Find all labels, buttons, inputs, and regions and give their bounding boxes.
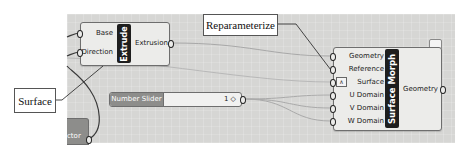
input-direction-label: Direction — [81, 48, 113, 56]
input-reference-grip[interactable] — [330, 66, 336, 74]
vector-output-grip[interactable] — [86, 136, 92, 144]
input-w-domain-label: W Domain — [348, 117, 384, 125]
input-u-domain-grip[interactable] — [330, 92, 336, 100]
input-surface-label: Surface — [357, 78, 384, 86]
input-geometry-label: Geometry — [349, 52, 384, 60]
number-slider-label: Number Slider — [110, 93, 164, 106]
callout-surface: Surface — [14, 88, 56, 113]
vector-component-label: ctor — [67, 132, 81, 140]
callout-reparameterize: Reparameterize — [203, 14, 278, 36]
input-surface-grip[interactable] — [330, 79, 336, 87]
input-w-domain-grip[interactable] — [330, 118, 336, 126]
slider-value-text: 1 — [224, 95, 228, 103]
surface-morph-title-bar: Surface Morph — [385, 49, 399, 128]
input-base-label: Base — [96, 29, 113, 37]
number-slider-value[interactable]: 1 ◇ — [224, 93, 236, 106]
extrude-title-bar: Extrude — [117, 24, 131, 63]
slider-output-grip[interactable] — [240, 96, 246, 104]
output-geometry-label: Geometry — [403, 85, 438, 93]
extrude-component[interactable]: Base Direction Extrude Extrusion — [80, 22, 170, 66]
input-reference-label: Reference — [349, 65, 384, 73]
surface-morph-component[interactable]: Geometry Reference Surface U Domain V Do… — [333, 47, 442, 131]
extrude-title: Extrude — [120, 26, 129, 61]
slider-handle-icon[interactable]: ◇ — [231, 95, 236, 103]
input-geometry-grip[interactable] — [330, 53, 336, 61]
input-u-domain-label: U Domain — [349, 91, 384, 99]
output-geometry-grip[interactable] — [440, 86, 446, 94]
input-direction-grip[interactable] — [77, 49, 83, 57]
surface-morph-title: Surface Morph — [387, 53, 397, 123]
output-extrusion-grip[interactable] — [168, 40, 174, 48]
input-v-domain-grip[interactable] — [330, 105, 336, 113]
output-extrusion-label: Extrusion — [135, 39, 168, 47]
input-v-domain-label: V Domain — [350, 104, 384, 112]
number-slider[interactable]: Number Slider 1 ◇ — [109, 92, 242, 107]
reparameterize-icon[interactable]: ∧ — [336, 77, 347, 87]
input-base-grip[interactable] — [77, 30, 83, 38]
